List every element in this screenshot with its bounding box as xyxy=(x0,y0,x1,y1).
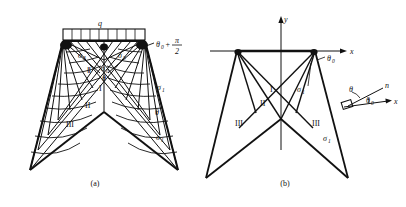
panel-b-left-apex-node xyxy=(234,49,241,55)
panel-a-caption: (a) xyxy=(91,179,100,188)
theta-expr-base: θ xyxy=(156,40,160,49)
panel-b-y-axis-label: y xyxy=(283,15,288,24)
label-theta-center: θ xyxy=(102,74,106,83)
panel-a-center-slip-lines xyxy=(30,41,178,170)
panel-b-right-apex-node xyxy=(310,49,317,55)
panel-b-right-outer-edge xyxy=(315,51,348,178)
panel-b-sigma1-lower-sub: 1 xyxy=(328,138,331,144)
panel-b: y x θ 0 xyxy=(206,15,398,188)
panel-b-sigma1-lower: σ 1 xyxy=(323,134,331,144)
panel-b-x-axis-label: x xyxy=(349,47,354,56)
panel-b-angle-detail: x n θ 0 θ xyxy=(341,81,398,109)
label-theta-right: θ xyxy=(155,108,159,117)
theta-expr-plus: + xyxy=(165,40,170,49)
panel-a-zone-II-upper: Ⅱ xyxy=(87,66,91,75)
panel-b-zone-III-right: III xyxy=(312,119,320,128)
theta-expr-sub: 0 xyxy=(161,44,164,50)
label-sigma1-right-upper-sub: 1 xyxy=(162,87,165,93)
panel-b-theta0-upper-sub: 0 xyxy=(332,58,335,64)
panel-b-detail-x-label: x xyxy=(393,97,398,106)
label-sigma3-mid-sub: 3 xyxy=(122,55,126,61)
load-label-q: q xyxy=(98,19,102,28)
panel-b-left-outer-edge xyxy=(206,51,237,178)
panel-b-theta0-upper: θ 0 xyxy=(317,54,335,64)
panel-b-theta0-upper-base: θ xyxy=(327,54,331,63)
theta-expr-numerator: π xyxy=(175,36,180,45)
panel-a-zone-I: I xyxy=(99,84,102,93)
panel-b-theta0-detail-base: θ xyxy=(366,96,370,105)
panel-b-left-lower-edge xyxy=(206,119,281,178)
label-sigma0-center-sub: 0 xyxy=(106,68,109,74)
panel-b-sigma1-upper-sub: 1 xyxy=(302,89,305,95)
panel-b-zone-I: I xyxy=(270,85,273,94)
panel-a-right-apex-node xyxy=(136,41,148,50)
label-sigma3-left-sub: 3 xyxy=(82,55,86,61)
distributed-load-strip xyxy=(63,29,145,40)
panel-b-theta0-detail-sub: 0 xyxy=(371,100,374,106)
panel-a-theta-expression: θ 0 + π 2 xyxy=(146,36,182,56)
panel-b-zone-III-left: III xyxy=(235,119,243,128)
panel-b-caption: (b) xyxy=(280,179,290,188)
panel-a-zone-III: III xyxy=(66,120,74,129)
panel-a-left-apex-node xyxy=(60,41,72,50)
panel-b-zone-II: II xyxy=(260,99,266,108)
panel-a-zone-II: II xyxy=(85,101,91,110)
panel-a-center-node xyxy=(100,44,108,51)
label-sigma1-right-lower-sub: 1 xyxy=(161,137,164,143)
theta-expr-denominator: 2 xyxy=(175,47,179,56)
panel-b-normal-n-label: n xyxy=(385,81,389,90)
panel-a: q xyxy=(30,19,182,188)
panel-b-theta-detail: θ xyxy=(349,85,353,94)
slip-line-field-figure: q xyxy=(0,0,406,207)
panel-a-right-lower-edge xyxy=(104,112,178,170)
